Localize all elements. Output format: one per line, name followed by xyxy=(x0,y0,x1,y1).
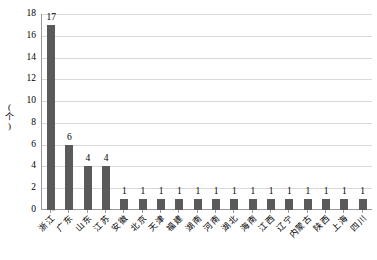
x-axis-category-label: 湖南 xyxy=(184,214,203,233)
bar-value-label: 1 xyxy=(269,187,274,197)
x-label-slot: 山东 xyxy=(78,214,96,260)
bar-value-label: 1 xyxy=(250,187,255,197)
bar-value-label: 6 xyxy=(67,133,72,143)
x-label-slot: 河南 xyxy=(206,214,224,260)
bar-slot: 1 xyxy=(225,14,243,210)
x-axis-category-label: 福建 xyxy=(166,214,185,233)
x-axis-tick-mark xyxy=(105,210,106,213)
bar-value-label: 1 xyxy=(122,187,127,197)
bar-value-label: 4 xyxy=(85,154,90,164)
bar-value-label: 1 xyxy=(324,187,329,197)
bar: 1 xyxy=(194,199,202,210)
bar-slot: 1 xyxy=(189,14,207,210)
x-axis-category-label: 海南 xyxy=(239,214,258,233)
plot-area: 1764411111111111111 xyxy=(41,14,371,210)
bar-value-label: 1 xyxy=(360,187,365,197)
x-axis-tick-mark xyxy=(123,210,124,213)
x-label-slot: 江西 xyxy=(261,214,279,260)
x-axis-category-label: 上海 xyxy=(331,214,350,233)
bar: 1 xyxy=(340,199,348,210)
bar: 1 xyxy=(285,199,293,210)
bar-slot: 17 xyxy=(42,14,60,210)
bar-slot: 1 xyxy=(280,14,298,210)
x-axis-tick-mark xyxy=(197,210,198,213)
bar-slot: 1 xyxy=(335,14,353,210)
y-axis-tick-label: 0 xyxy=(31,205,36,215)
x-axis-category-label: 广东 xyxy=(56,214,75,233)
y-axis-tick-label: 16 xyxy=(27,31,37,41)
bar: 1 xyxy=(157,199,165,210)
bar-slot: 4 xyxy=(79,14,97,210)
x-axis-tick-mark xyxy=(233,210,234,213)
bar: 1 xyxy=(249,199,257,210)
x-label-slot: 安徽 xyxy=(114,214,132,260)
bar-slot: 1 xyxy=(207,14,225,210)
x-label-slot: 江苏 xyxy=(96,214,114,260)
x-axis-tick-mark xyxy=(160,210,161,213)
bar-slot: 1 xyxy=(170,14,188,210)
bar-value-label: 1 xyxy=(287,187,292,197)
x-label-slot: 海南 xyxy=(243,214,261,260)
x-label-slot: 广东 xyxy=(59,214,77,260)
x-axis-category-label: 陕西 xyxy=(312,214,331,233)
bar-value-label: 1 xyxy=(214,187,219,197)
x-axis-tick-mark xyxy=(252,210,253,213)
x-axis-tick-mark xyxy=(142,210,143,213)
x-axis-category-label: 江西 xyxy=(257,214,276,233)
bar: 4 xyxy=(84,166,92,210)
bar-value-label: 1 xyxy=(305,187,310,197)
x-axis-category-label: 北京 xyxy=(129,214,148,233)
x-label-slot: 上海 xyxy=(334,214,352,260)
bar-slot: 1 xyxy=(244,14,262,210)
x-label-slot: 福建 xyxy=(169,214,187,260)
x-axis-tick-mark xyxy=(307,210,308,213)
y-axis-tick-label: 18 xyxy=(27,9,37,19)
bar: 1 xyxy=(175,199,183,210)
bar-slot: 6 xyxy=(60,14,78,210)
bar-slot: 4 xyxy=(97,14,115,210)
bar-chart: (个) 024681012141618 1764411111111111111 … xyxy=(0,0,377,260)
x-axis-category-label: 四川 xyxy=(349,214,368,233)
y-axis-tick-labels: 024681012141618 xyxy=(14,14,38,210)
y-axis-tick-label: 4 xyxy=(31,162,36,172)
x-axis-tick-mark xyxy=(325,210,326,213)
bar-slot: 1 xyxy=(262,14,280,210)
y-axis-tick-label: 14 xyxy=(27,53,37,63)
bar-slot: 1 xyxy=(134,14,152,210)
bar: 1 xyxy=(304,199,312,210)
x-label-slot: 天津 xyxy=(151,214,169,260)
x-axis-category-labels: 浙江广东山东江苏安徽北京天津福建湖南河南湖北海南江西辽宁内蒙古陕西上海四川 xyxy=(41,214,371,260)
bar: 4 xyxy=(102,166,110,210)
bar-value-label: 4 xyxy=(104,154,109,164)
x-label-slot: 陕西 xyxy=(316,214,334,260)
bar: 1 xyxy=(267,199,275,210)
bar: 1 xyxy=(212,199,220,210)
x-axis-tick-mark xyxy=(270,210,271,213)
x-axis-tick-mark xyxy=(362,210,363,213)
bar: 17 xyxy=(47,25,55,210)
x-axis-tick-mark xyxy=(215,210,216,213)
x-axis-tick-mark xyxy=(343,210,344,213)
bar-slot: 1 xyxy=(317,14,335,210)
x-axis-tick-mark xyxy=(288,210,289,213)
x-axis-tick-mark xyxy=(178,210,179,213)
x-axis-tick-mark xyxy=(68,210,69,213)
bar-value-label: 1 xyxy=(195,187,200,197)
bar: 1 xyxy=(139,199,147,210)
x-axis-category-label: 湖北 xyxy=(221,214,240,233)
x-label-slot: 浙江 xyxy=(41,214,59,260)
bar-value-label: 1 xyxy=(159,187,164,197)
x-label-slot: 内蒙古 xyxy=(298,214,316,260)
bar-slot: 1 xyxy=(354,14,372,210)
bar-value-label: 1 xyxy=(342,187,347,197)
bar: 1 xyxy=(230,199,238,210)
y-axis-tick-label: 2 xyxy=(31,183,36,193)
x-label-slot: 湖北 xyxy=(224,214,242,260)
bar: 6 xyxy=(65,145,73,210)
y-axis-tick-label: 8 xyxy=(31,118,36,128)
bar-slot: 1 xyxy=(152,14,170,210)
x-axis-category-label: 山东 xyxy=(74,214,93,233)
bar-slot: 1 xyxy=(299,14,317,210)
x-label-slot: 四川 xyxy=(353,214,371,260)
bar: 1 xyxy=(322,199,330,210)
